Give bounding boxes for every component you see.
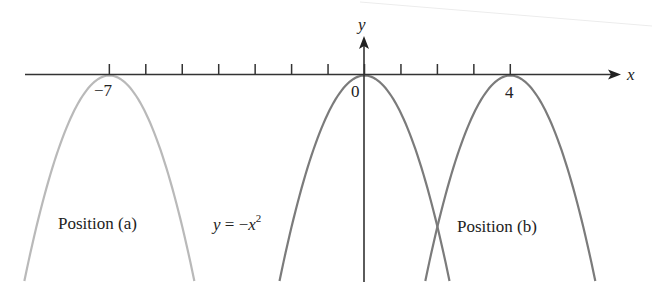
tick-label-neg7: −7 [94,81,113,100]
position-b-label: Position (b) [457,217,537,236]
equation-lhs: y [211,215,221,234]
y-axis-label: y [356,15,366,34]
equation-label: y = −x2 [211,212,261,234]
parabola-position-a [24,76,194,281]
scan-artifact-line [360,2,652,26]
parabola-translation-figure: x y −7 0 4 Position (a) y = −x2 Position… [0,0,652,301]
x-axis-ticks [109,64,510,75]
curves-group [24,76,595,281]
equation-exponent: 2 [256,212,262,224]
position-a-label: Position (a) [58,214,137,233]
tick-label-0: 0 [351,82,360,101]
equation-mid: = − [221,215,249,234]
x-axis-label: x [626,65,635,84]
parabola-position-b [425,76,595,281]
tick-label-4: 4 [505,83,514,102]
